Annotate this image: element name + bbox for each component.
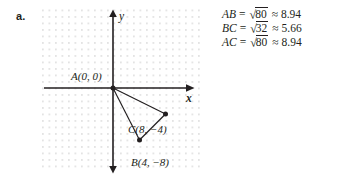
point-b: [137, 138, 142, 143]
equation-ab-radicand: 80: [255, 7, 268, 20]
graph-svg: y x A(0, 0) B(4, −8) C(8, −4): [36, 6, 204, 178]
equation-ab-segment: AB: [222, 8, 236, 20]
point-b-label: B(4, −8): [131, 156, 169, 169]
point-c: [163, 112, 168, 117]
equation-ab-approx: ≈: [268, 8, 281, 20]
equation-bc-radical: √32: [249, 21, 268, 36]
equation-bc-approx: ≈: [268, 22, 281, 34]
equation-bc: BC = √32 ≈ 5.66: [222, 21, 341, 35]
problem-label: a.: [16, 10, 26, 22]
grid-dots: [42, 8, 200, 170]
equation-ac: AC = √80 ≈ 8.94: [222, 35, 341, 49]
equation-bc-value: 5.66: [282, 22, 302, 34]
equation-ac-equals: =: [237, 36, 250, 48]
point-a: [111, 86, 116, 91]
equation-ac-radicand: 80: [256, 35, 269, 48]
equation-ab: AB = √80 ≈ 8.94: [222, 7, 341, 21]
x-axis-label: x: [185, 92, 192, 104]
equation-bc-equals: =: [237, 22, 250, 34]
equation-ab-equals: =: [236, 8, 249, 20]
y-axis-label: y: [118, 10, 125, 23]
coordinate-graph: y x A(0, 0) B(4, −8) C(8, −4): [36, 6, 204, 178]
point-a-label: A(0, 0): [70, 70, 102, 83]
equation-ab-radical: √80: [249, 7, 268, 22]
equation-ac-value: 8.94: [282, 36, 302, 48]
distance-equations: AB = √80 ≈ 8.94 BC = √32 ≈ 5.66 AC = √80…: [222, 7, 341, 49]
equation-ac-segment: AC: [222, 36, 237, 48]
equation-bc-radicand: 32: [256, 21, 269, 34]
equation-ac-approx: ≈: [268, 36, 281, 48]
equation-ac-radical: √80: [249, 35, 268, 50]
point-c-label: C(8, −4): [128, 123, 167, 136]
equation-ab-value: 8.94: [281, 8, 301, 20]
figure-page: a.: [0, 0, 341, 184]
equation-bc-segment: BC: [222, 22, 237, 34]
